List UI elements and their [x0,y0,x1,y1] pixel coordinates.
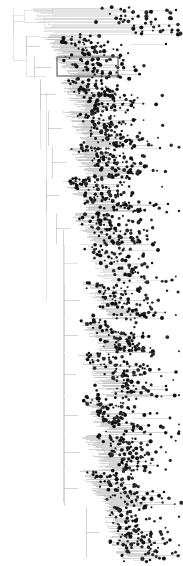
tip-node [118,238,120,240]
tip-node [161,94,165,98]
tip-node [145,297,149,301]
tip-node [143,209,146,212]
tip-node [104,252,106,254]
tip-node [112,241,116,245]
tip-node [164,170,167,173]
tip-node [106,340,108,342]
tip-node [92,361,95,364]
tip-node [114,451,116,453]
tip-node [95,101,97,103]
tip-node [101,305,104,308]
tip-node [115,368,117,370]
tip-node [123,136,125,138]
tip-node [92,116,95,119]
tip-node [78,40,81,43]
tip-node [126,362,129,365]
tip-node [135,491,138,494]
tip-node [140,502,143,505]
tip-node [123,94,126,97]
tip-node [178,146,181,149]
tip-node [128,201,130,203]
tip-node [131,18,134,21]
tip-node [93,243,97,247]
tip-node [132,449,135,452]
tip-node [121,306,124,309]
tip-node [96,178,100,182]
tip-node [125,506,128,509]
tip-node [75,65,79,69]
tip-node [127,219,130,222]
tip-node [110,302,114,306]
tip-node [96,127,99,130]
tip-node [111,257,113,259]
tip-node [85,47,87,49]
tip-node [89,41,92,44]
tip-node [149,412,152,415]
tip-node [83,43,85,45]
tip-node [91,76,93,78]
tip-node [169,12,172,15]
tip-node [90,402,92,404]
tip-node [144,293,147,296]
tip-node [105,137,107,139]
tip-node [108,116,112,120]
tip-node [95,389,98,392]
tip-node [132,211,134,213]
tip-node [151,301,154,304]
tip-node [134,348,137,351]
tip-node [110,59,112,61]
tip-node [126,109,129,112]
tip-node [125,111,127,113]
tip-node [100,192,104,196]
tip-node [76,187,79,190]
tip-node [161,426,165,430]
tip-node [98,253,102,257]
tip-node [138,132,141,135]
tip-node [144,10,148,14]
tip-node [151,506,153,508]
tip-node [91,127,93,129]
tip-node [125,177,127,179]
tip-node [81,60,84,63]
tip-node [87,281,91,285]
tip-node [175,314,177,316]
tip-node [126,495,129,498]
tip-node [116,305,120,309]
tip-node [140,531,143,534]
tip-node [130,339,134,343]
tip-node [105,398,108,401]
tip-node [99,168,103,172]
tip-node [104,260,106,262]
tip-node [133,242,136,245]
tip-node [99,486,101,488]
tip-node [98,415,100,417]
tip-node [116,388,118,390]
tip-node [154,18,157,21]
tip-node [86,85,90,89]
tip-node [132,410,135,413]
tip-node [96,110,99,113]
tip-node [123,491,127,495]
tip-node [135,500,137,502]
tip-node [137,485,140,488]
tip-node [82,149,85,152]
tip-node [135,452,139,456]
tip-node [108,420,111,423]
tip-node [110,106,113,109]
tip-node [70,38,73,41]
tip-node [97,159,101,163]
tip-node [100,114,102,116]
tip-node [129,232,132,235]
tip-node [148,540,151,543]
tip-node [83,141,86,144]
tip-node [107,103,109,105]
tip-node [145,492,149,496]
tip-node [155,276,158,279]
tip-node [157,547,159,549]
tip-node [128,177,131,180]
tip-node [114,494,116,496]
tip-node [145,234,148,237]
tip-node [93,50,97,54]
tip-node [115,482,117,484]
tip-node [134,31,137,34]
